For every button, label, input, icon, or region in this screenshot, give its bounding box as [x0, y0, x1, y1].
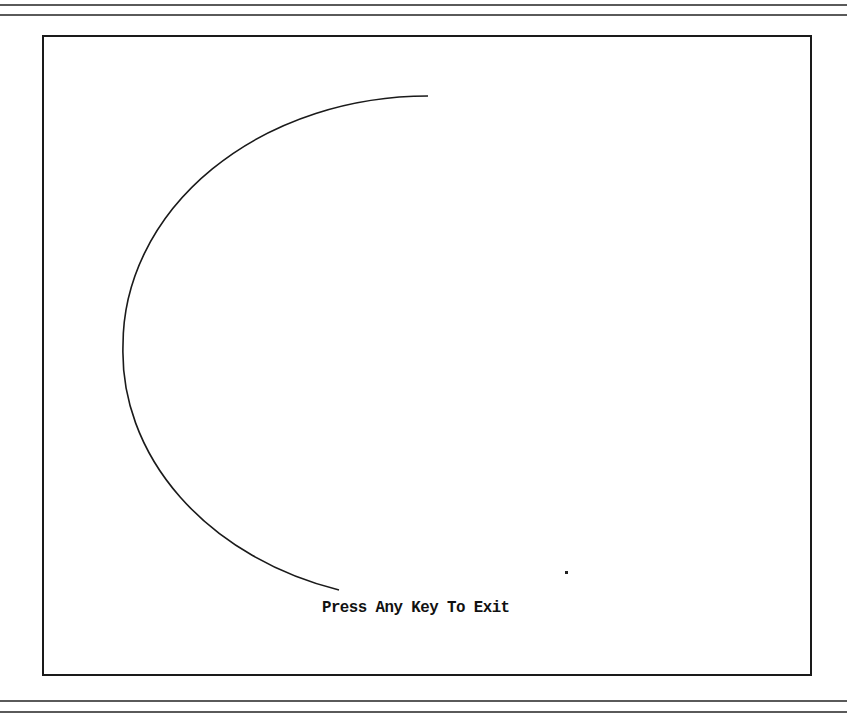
drawn-arc	[123, 96, 428, 590]
bottom-rule-inner	[0, 711, 847, 713]
stray-pixel	[565, 571, 568, 574]
press-any-key-prompt: Press Any Key To Exit	[322, 598, 510, 617]
bottom-rule-outer	[0, 700, 847, 702]
